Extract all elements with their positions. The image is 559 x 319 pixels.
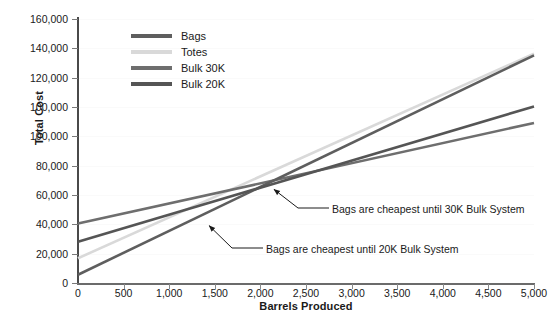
leader-line-bulk-20k — [209, 226, 263, 248]
annotation-bulk-20k: Bags are cheapest until 20K Bulk System — [266, 243, 459, 255]
line-chart: Total Cost Barrels Produced 160,000140,0… — [0, 0, 559, 319]
leader-line-bulk-30k — [274, 189, 329, 208]
annotation-leaders — [0, 0, 559, 319]
annotation-bulk-30k: Bags are cheapest until 30K Bulk System — [332, 203, 525, 215]
